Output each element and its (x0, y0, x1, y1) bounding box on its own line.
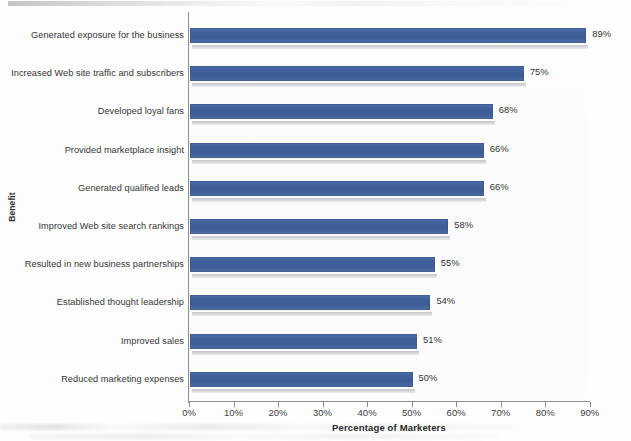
scan-artifact-bottom-secondary (30, 434, 500, 439)
scanned-caption-sliver (8, 1, 568, 6)
bar-value-label: 75% (530, 66, 549, 77)
bar-container (190, 66, 524, 89)
bar-value-label: 68% (499, 104, 518, 115)
bar-row: Provided marketplace insight66% (0, 135, 631, 174)
bar-container (190, 295, 430, 318)
bar-row: Increased Web site traffic and subscribe… (0, 58, 631, 97)
bar-value-label: 55% (441, 257, 460, 268)
category-label: Established thought leadership (8, 297, 184, 308)
bar (190, 28, 586, 43)
bar-value-label: 50% (419, 372, 438, 383)
bar-value-label: 54% (436, 295, 455, 306)
bar-container (190, 181, 484, 204)
category-label: Provided marketplace insight (8, 145, 184, 156)
x-axis-tick-label: 30% (301, 407, 345, 418)
x-axis-tick-label: 50% (390, 407, 434, 418)
bar-row: Developed loyal fans68% (0, 96, 631, 135)
bar-shadow (192, 45, 588, 49)
category-label: Increased Web site traffic and subscribe… (8, 68, 184, 79)
bar (190, 295, 430, 310)
bar-container (190, 334, 417, 357)
bar-shadow (192, 312, 432, 316)
category-label: Reduced marketing expenses (8, 374, 184, 385)
bar-row: Generated qualified leads66% (0, 173, 631, 212)
x-axis-tick-label: 10% (212, 407, 256, 418)
category-label: Generated exposure for the business (8, 30, 184, 41)
bar (190, 372, 413, 387)
x-axis-tick-label: 90% (568, 407, 612, 418)
bar-row: Generated exposure for the business89% (0, 20, 631, 59)
category-label: Resulted in new business partnerships (8, 259, 184, 270)
x-axis-tick-label: 40% (345, 407, 389, 418)
category-label: Generated qualified leads (8, 183, 184, 194)
x-axis-tick-label: 0% (167, 407, 211, 418)
bar-row: Established thought leadership54% (0, 287, 631, 326)
bar-row: Reduced marketing expenses50% (0, 364, 631, 403)
bar (190, 66, 524, 81)
x-axis-title: Percentage of Marketers (189, 422, 589, 433)
bar-value-label: 58% (454, 219, 473, 230)
bar-shadow (192, 121, 495, 125)
bar-container (190, 104, 493, 127)
bar-value-label: 89% (592, 28, 611, 39)
bar-shadow (192, 236, 450, 240)
bar (190, 219, 448, 234)
bar-row: Improved sales51% (0, 326, 631, 365)
x-axis-tick-label: 70% (479, 407, 523, 418)
bar-shadow (192, 83, 526, 87)
bar-shadow (192, 351, 419, 355)
bar-value-label: 66% (490, 181, 509, 192)
bar-shadow (192, 198, 486, 202)
bar-container (190, 257, 435, 280)
category-label: Improved sales (8, 336, 184, 347)
x-axis-tick-label: 80% (523, 407, 567, 418)
bar-value-label: 66% (490, 143, 509, 154)
bar (190, 257, 435, 272)
bar-container (190, 143, 484, 166)
x-axis-tick-label: 20% (256, 407, 300, 418)
bar-value-label: 51% (423, 334, 442, 345)
category-label: Improved Web site search rankings (8, 221, 184, 232)
bar (190, 104, 493, 119)
bar-shadow (192, 274, 437, 278)
bar-row: Resulted in new business partnerships55% (0, 249, 631, 288)
bar (190, 143, 484, 158)
bar-shadow (192, 160, 486, 164)
bar-shadow (192, 389, 415, 393)
bar-container (190, 28, 586, 51)
bar-container (190, 372, 413, 395)
category-label: Developed loyal fans (8, 106, 184, 117)
bar-container (190, 219, 448, 242)
bar (190, 334, 417, 349)
bar (190, 181, 484, 196)
bar-row: Improved Web site search rankings58% (0, 211, 631, 250)
x-axis-tick-label: 60% (434, 407, 478, 418)
